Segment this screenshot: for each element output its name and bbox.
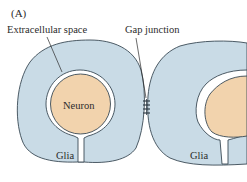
panel-label: (A) — [11, 7, 27, 20]
extracellular-space-label: Extracellular space — [7, 24, 87, 35]
glia-neuron-diagram: (A) Extracellular space Gap junction Neu… — [0, 0, 247, 182]
glia-left-label: Glia — [56, 150, 74, 161]
glia-right-label: Glia — [190, 150, 208, 161]
right-glia-cell — [148, 41, 247, 165]
neuron-label: Neuron — [63, 100, 95, 111]
gap-junction-label: Gap junction — [125, 24, 180, 35]
